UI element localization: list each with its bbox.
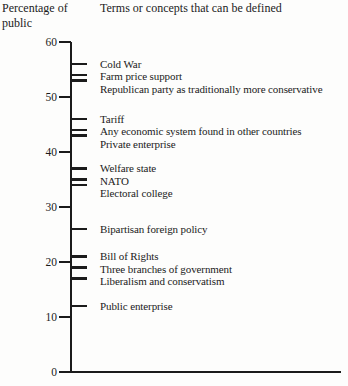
y-tick bbox=[59, 41, 71, 43]
x-baseline bbox=[70, 371, 341, 373]
y-axis-title-line2: public bbox=[2, 16, 92, 31]
term-tick bbox=[72, 305, 87, 307]
term-label: Welfare state bbox=[100, 162, 156, 175]
y-tick-label: 30 bbox=[20, 200, 57, 214]
term-label: Liberalism and conservatism bbox=[100, 275, 224, 288]
y-axis-title-line1: Percentage of bbox=[2, 1, 92, 16]
term-label: Any economic system found in other count… bbox=[100, 125, 302, 138]
term-tick bbox=[72, 184, 87, 186]
y-tick-label: 60 bbox=[20, 35, 57, 49]
term-tick bbox=[72, 167, 87, 169]
y-tick-label: 50 bbox=[20, 90, 57, 104]
term-label: NATO bbox=[100, 175, 129, 188]
term-tick bbox=[72, 266, 87, 268]
y-tick-label: 0 bbox=[20, 365, 57, 379]
y-tick-label: 20 bbox=[20, 255, 57, 269]
term-label: Bill of Rights bbox=[100, 250, 159, 263]
term-tick bbox=[72, 277, 87, 279]
term-tick bbox=[72, 228, 87, 230]
term-label: Public enterprise bbox=[100, 300, 173, 313]
figure: Percentage of public Terms or concepts t… bbox=[0, 0, 348, 386]
term-label: Tariff bbox=[100, 113, 124, 126]
term-label: Cold War bbox=[100, 58, 141, 71]
y-tick-label: 40 bbox=[20, 145, 57, 159]
term-label: Private enterprise bbox=[100, 138, 175, 151]
term-tick bbox=[72, 63, 87, 65]
term-tick bbox=[72, 79, 87, 81]
y-tick bbox=[59, 261, 71, 263]
y-tick bbox=[59, 316, 71, 318]
term-tick bbox=[72, 74, 87, 76]
term-tick bbox=[72, 178, 87, 180]
term-tick bbox=[72, 255, 87, 257]
term-tick bbox=[72, 118, 87, 120]
term-label: Bipartisan foreign policy bbox=[100, 223, 207, 236]
term-label: Electoral college bbox=[100, 187, 173, 200]
term-label: Farm price support bbox=[100, 70, 182, 83]
term-label: Three branches of government bbox=[100, 263, 232, 276]
term-label: Republican party as traditionally more c… bbox=[100, 83, 322, 96]
terms-header: Terms or concepts that can be defined bbox=[100, 1, 346, 16]
y-tick bbox=[59, 96, 71, 98]
y-axis-title: Percentage of public bbox=[2, 1, 92, 30]
term-tick bbox=[72, 129, 87, 131]
y-tick bbox=[59, 206, 71, 208]
y-tick bbox=[59, 151, 71, 153]
term-tick bbox=[72, 134, 87, 136]
y-tick-label: 10 bbox=[20, 310, 57, 324]
y-tick bbox=[59, 371, 71, 373]
